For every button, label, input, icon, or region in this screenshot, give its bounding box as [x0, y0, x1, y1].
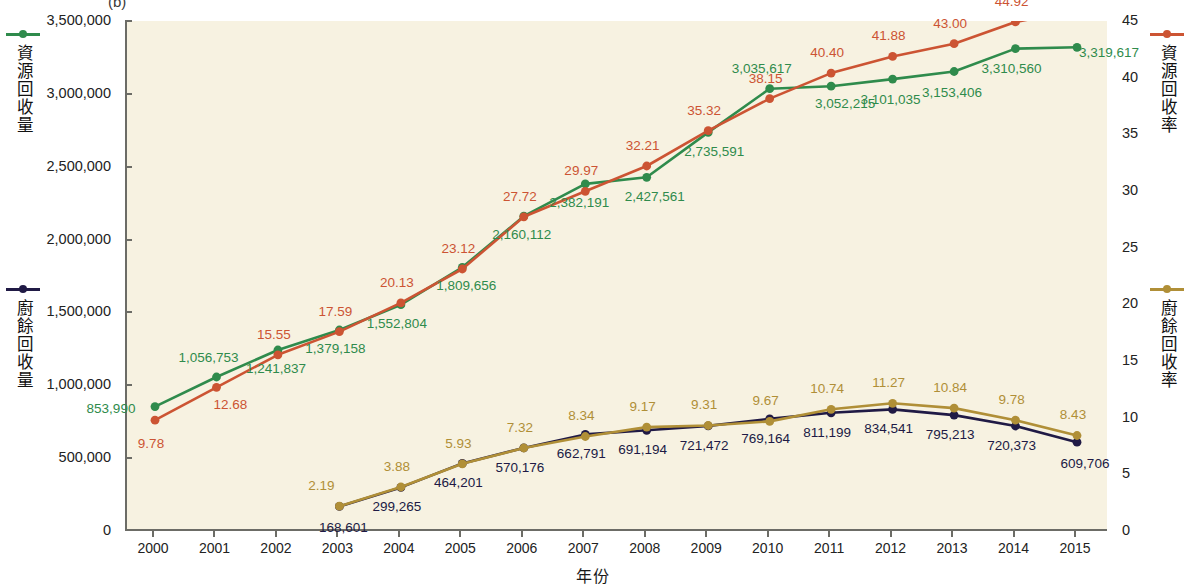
- data-point-label: 691,194: [618, 443, 667, 457]
- data-point-label: 9.78: [998, 393, 1024, 407]
- data-point: [212, 373, 221, 382]
- x-axis-tick-label: 2004: [369, 540, 429, 556]
- x-axis-tick-label: 2014: [984, 540, 1044, 556]
- data-point-label: 2.19: [308, 479, 334, 493]
- x-axis-tick-label: 2015: [1045, 540, 1105, 556]
- data-point-label: 43.00: [933, 17, 967, 31]
- data-point-label: 38.15: [749, 72, 783, 86]
- data-point-label: 795,213: [926, 428, 975, 442]
- data-point-label: 168,601: [319, 521, 368, 535]
- data-point-label: 853,990: [87, 402, 136, 416]
- data-point-label: 570,176: [495, 461, 544, 475]
- data-point-label: 20.13: [380, 276, 414, 290]
- legend-swatch-red: [1150, 28, 1184, 40]
- x-axis-tick-mark: [398, 531, 400, 537]
- data-point: [642, 162, 651, 171]
- x-axis-tick-label: 2006: [492, 540, 552, 556]
- data-point-label: 1,552,804: [367, 317, 427, 331]
- data-point-label: 3,153,406: [922, 86, 982, 100]
- data-point-label: 2,427,561: [625, 190, 685, 204]
- x-axis-tick-label: 2001: [184, 540, 244, 556]
- series-line-廚餘回收率: [339, 403, 1077, 506]
- right-axis-tick-label: 0: [1122, 522, 1130, 538]
- x-axis-tick-label: 2011: [799, 540, 859, 556]
- data-point: [458, 459, 467, 468]
- data-point-label: 2,382,191: [549, 196, 609, 210]
- data-point: [888, 75, 897, 84]
- data-point: [397, 483, 406, 492]
- right-axis-tick-label: 40: [1122, 69, 1138, 85]
- data-point: [642, 423, 651, 432]
- data-point-label: 1,241,837: [246, 362, 306, 376]
- data-point: [888, 399, 897, 408]
- data-point-label: 1,379,158: [305, 342, 365, 356]
- data-point-label: 720,373: [987, 439, 1036, 453]
- data-point: [519, 444, 528, 453]
- data-point-label: 32.21: [626, 139, 660, 153]
- left-axis-tick-label: 500,000: [59, 449, 111, 465]
- legend-swatch-green: [6, 28, 40, 40]
- right-axis-tick-label: 35: [1122, 125, 1138, 141]
- left-axis-tick-mark: [125, 311, 132, 313]
- data-point-label: 11.27: [872, 376, 905, 390]
- data-point-label: 721,472: [680, 439, 729, 453]
- x-axis-tick-label: 2012: [861, 540, 921, 556]
- x-axis-tick-mark: [890, 531, 892, 537]
- left-axis-tick-label: 1,000,000: [46, 376, 111, 392]
- x-axis-tick-label: 2000: [123, 540, 183, 556]
- left-axis-tick-label: 2,500,000: [46, 158, 111, 174]
- data-point-label: 7.32: [507, 421, 533, 435]
- data-point-label: 15.55: [257, 328, 291, 342]
- data-point-label: 23.12: [441, 242, 475, 256]
- right-axis-tick-label: 20: [1122, 295, 1138, 311]
- data-point: [274, 350, 283, 359]
- data-point-label: 5.93: [445, 437, 471, 451]
- data-point-label: 662,791: [557, 447, 606, 461]
- x-axis-tick-label: 2009: [676, 540, 736, 556]
- x-axis-tick-mark: [213, 531, 215, 537]
- x-axis-tick-label: 2002: [246, 540, 306, 556]
- data-point-label: 1,809,656: [436, 279, 496, 293]
- data-point-label: 9.17: [630, 400, 656, 414]
- left-axis-tick-mark: [125, 239, 132, 241]
- x-axis-tick-mark: [459, 531, 461, 537]
- data-point-label: 299,265: [372, 500, 421, 514]
- legend-swatch-navy: [6, 283, 40, 295]
- data-point: [458, 265, 467, 274]
- legend-swatch-gold: [1150, 283, 1184, 295]
- data-point: [1011, 21, 1020, 26]
- x-axis-tick-label: 2005: [430, 540, 490, 556]
- x-axis-tick-mark: [1013, 531, 1015, 537]
- data-point-label: 40.40: [810, 46, 844, 60]
- data-point-label: 41.88: [872, 29, 906, 43]
- x-axis-tick-mark: [705, 531, 707, 537]
- legend-resource-recycling-rate: 資源回收率: [1148, 28, 1186, 138]
- right-axis-tick-label: 30: [1122, 182, 1138, 198]
- data-point: [827, 82, 836, 91]
- left-axis-tick-mark: [125, 166, 132, 168]
- data-point-label: 1,056,753: [178, 351, 238, 365]
- data-point-label: 9.67: [753, 394, 779, 408]
- data-point-label: 8.34: [568, 409, 594, 423]
- data-point-label: 769,164: [741, 432, 790, 446]
- right-axis-tick-label: 45: [1122, 12, 1138, 28]
- x-axis-title: 年份: [0, 563, 1186, 587]
- series-line-資源回收量: [155, 47, 1077, 406]
- data-point: [581, 432, 590, 441]
- data-point: [642, 173, 651, 182]
- data-point-label: 834,541: [864, 422, 913, 436]
- data-point-label: 2,735,591: [684, 145, 744, 159]
- data-point-label: 44.92: [995, 0, 1029, 8]
- data-point-label: 3,319,617: [1079, 46, 1139, 60]
- x-axis-tick-mark: [582, 531, 584, 537]
- left-axis-tick-label: 3,500,000: [46, 12, 111, 28]
- panel-label: (b): [108, 0, 126, 10]
- data-point: [950, 39, 959, 48]
- data-point-label: 3,101,035: [861, 93, 921, 107]
- data-point-label: 35.32: [687, 104, 721, 118]
- x-axis-tick-label: 2007: [553, 540, 613, 556]
- data-point: [519, 212, 528, 221]
- legend-food-waste-rate: 廚餘回收率: [1148, 283, 1186, 393]
- data-point-label: 3,310,560: [982, 62, 1042, 76]
- data-point-label: 17.59: [318, 305, 352, 319]
